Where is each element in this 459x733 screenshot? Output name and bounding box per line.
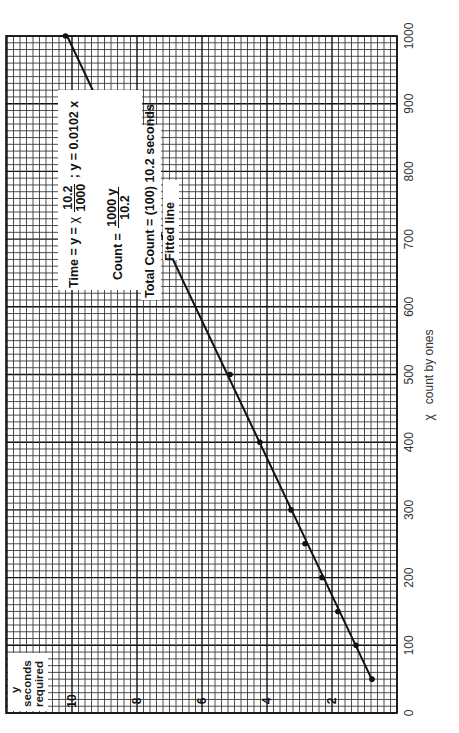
count-fraction: 1000 y 10.2: [106, 187, 131, 227]
time-chi: χ: [67, 217, 81, 224]
data-point: [335, 609, 341, 615]
y-tick-label: 4: [260, 698, 274, 705]
data-point: [257, 439, 263, 445]
time-fraction: 10.2 1000: [62, 184, 87, 212]
x-tick-label: 700: [402, 229, 416, 249]
count-denominator: 10.2: [119, 187, 131, 227]
data-point: [302, 541, 308, 547]
x-tick-label: 200: [402, 568, 416, 588]
x-tick-label: 0: [402, 710, 416, 717]
count-prefix: Count =: [111, 230, 125, 280]
x-axis-label-text: count by ones: [422, 329, 436, 404]
time-denominator: 1000: [75, 184, 87, 212]
y-tick-label: 2: [325, 698, 339, 705]
y-axis-label: y seconds required: [8, 653, 48, 711]
data-point: [63, 33, 69, 39]
y-axis-label-line3: required: [33, 653, 45, 707]
data-point: [319, 575, 325, 581]
x-tick-label: 1000: [402, 23, 416, 50]
x-tick-label: 800: [402, 161, 416, 181]
annotation-time-formula: Time = y = χ 10.2 1000 ; y = 0.0102 x: [62, 101, 87, 288]
annotation-count-formula: Count = 1000 y 10.2: [106, 185, 131, 280]
y-axis-symbol: y: [9, 653, 21, 707]
x-axis-symbol: χ: [422, 414, 436, 420]
x-tick-label: 100: [402, 635, 416, 655]
data-point: [227, 372, 233, 378]
x-axis-label: χ count by ones: [422, 329, 436, 420]
y-tick-label: 8: [130, 698, 144, 705]
annotation-total-count: Total Count = (100) 10.2 seconds: [143, 104, 157, 298]
data-point: [369, 676, 375, 682]
x-tick-label: 300: [402, 500, 416, 520]
y-tick-label: 6: [195, 698, 209, 705]
y-axis-label-line2: seconds: [21, 653, 33, 707]
x-tick-label: 600: [402, 297, 416, 317]
data-point: [288, 507, 294, 513]
x-tick-label: 900: [402, 94, 416, 114]
y-tick-label: 10: [65, 694, 79, 707]
x-tick-label: 500: [402, 364, 416, 384]
time-prefix: Time = y =: [67, 224, 81, 288]
data-point: [353, 643, 359, 649]
rotated-chart: y seconds required 010020030040050060070…: [6, 36, 397, 713]
annotation-fitted-line: Fitted line: [163, 202, 177, 261]
x-tick-label: 400: [402, 432, 416, 452]
time-suffix: ; y = 0.0102 x: [67, 101, 81, 179]
